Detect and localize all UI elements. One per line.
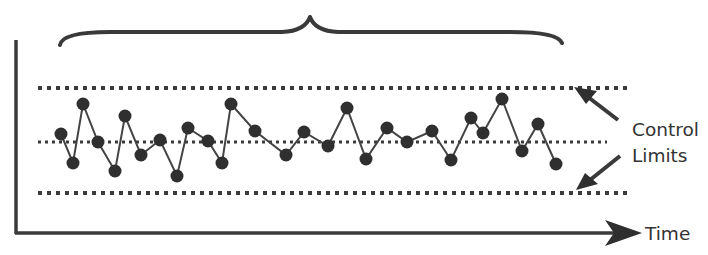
data-point (249, 125, 262, 138)
control-limits-label-line1: Control (632, 119, 699, 140)
data-point (550, 158, 563, 171)
data-point (341, 102, 354, 115)
data-point (477, 127, 490, 140)
data-point (67, 157, 80, 170)
data-point (92, 136, 105, 149)
data-point (516, 145, 529, 158)
data-point (202, 135, 215, 148)
process-data-points (55, 93, 563, 183)
upper-limit-pointer-arrow (588, 97, 618, 120)
data-point (280, 149, 293, 162)
control-limits-label-line2: Limits (632, 145, 688, 166)
data-point (496, 93, 509, 106)
lower-limit-pointer-arrow (590, 156, 620, 180)
data-point (182, 122, 195, 135)
data-point (360, 153, 373, 166)
data-point (532, 118, 545, 131)
data-point (298, 126, 311, 139)
data-point (322, 140, 335, 153)
data-point (465, 112, 478, 125)
data-point (381, 122, 394, 135)
x-axis-label-time: Time (644, 223, 690, 244)
data-point (225, 98, 238, 111)
data-point (154, 134, 167, 147)
data-point (445, 154, 458, 167)
data-point (77, 98, 90, 111)
data-point (55, 128, 68, 141)
data-point (109, 165, 122, 178)
data-point (426, 125, 439, 138)
sample-span-brace (60, 17, 562, 45)
data-point (171, 170, 184, 183)
data-point (135, 149, 148, 162)
control-chart-diagram: Control Limits Time (0, 0, 708, 255)
data-point (401, 136, 414, 149)
data-point (119, 110, 132, 123)
data-point (216, 157, 229, 170)
control-chart-svg: Control Limits Time (0, 0, 708, 255)
